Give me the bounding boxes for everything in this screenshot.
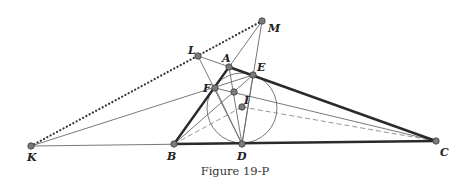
label-l: L	[187, 44, 196, 57]
label-k: K	[26, 151, 37, 164]
point-l	[195, 53, 201, 59]
point-k	[28, 143, 34, 149]
figure-caption: Figure 19-P	[0, 164, 470, 178]
side-ac	[229, 67, 436, 141]
label-d: D	[236, 150, 247, 163]
side-ab	[174, 67, 229, 144]
point-f	[212, 85, 218, 91]
label-b: B	[166, 150, 176, 163]
point-b	[171, 141, 177, 147]
point-p	[231, 89, 237, 95]
label-c: C	[440, 146, 449, 159]
geometry-diagram: A B C D E F I K L M	[0, 0, 470, 188]
point-d	[239, 141, 245, 147]
point-c	[433, 138, 439, 144]
point-m	[259, 18, 265, 24]
label-m: M	[267, 22, 281, 35]
label-a: A	[221, 52, 231, 65]
label-e: E	[256, 61, 266, 74]
label-i: I	[243, 94, 250, 107]
dashed-line-i-c	[242, 107, 436, 141]
point-e	[250, 72, 256, 78]
dashed-line-b-i	[174, 107, 242, 144]
label-f: F	[202, 82, 212, 95]
side-bc	[174, 141, 436, 144]
